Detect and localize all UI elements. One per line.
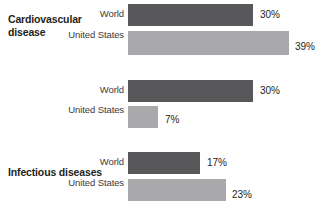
bar-world-cardiovascular-disease [128, 4, 253, 26]
bar-value-world-cancers: 17% [207, 157, 227, 169]
bar-value-united-states-infectious-diseases: 7% [165, 114, 179, 126]
series-label-world: World [54, 156, 124, 168]
bar-row-united-states: United States 7% [0, 102, 323, 127]
bar-row-world: World 30% [0, 0, 323, 25]
bar-row-world: World 30% [0, 76, 323, 101]
bar-row-united-states: United States 39% [0, 27, 323, 52]
series-label-united-states: United States [54, 177, 124, 189]
bar-world-cancers [128, 152, 200, 174]
bar-united-states-cardiovascular-disease [128, 31, 289, 55]
bar-value-world-cardiovascular-disease: 30% [260, 9, 280, 21]
chart-group-cardiovascular-disease: Cardiovascular disease World 30% United … [0, 0, 323, 70]
bar-united-states-cancers [128, 179, 226, 201]
bar-row-world: World 17% [0, 148, 323, 173]
bar-chart: Cardiovascular disease World 30% United … [0, 0, 323, 208]
bar-world-infectious-diseases [128, 80, 253, 102]
series-label-united-states: United States [54, 29, 124, 41]
series-label-world: World [54, 84, 124, 96]
bar-united-states-infectious-diseases [128, 106, 158, 128]
chart-group-cancers: Cancers World 17% United States 23% [0, 148, 323, 208]
bar-value-united-states-cancers: 23% [232, 189, 252, 201]
series-label-united-states: United States [54, 104, 124, 116]
bar-value-united-states-cardiovascular-disease: 39% [295, 41, 315, 53]
series-label-world: World [54, 8, 124, 20]
chart-group-infectious-diseases: Infectious diseases World 30% United Sta… [0, 76, 323, 146]
bar-value-world-infectious-diseases: 30% [260, 85, 280, 97]
bar-row-united-states: United States 23% [0, 175, 323, 200]
